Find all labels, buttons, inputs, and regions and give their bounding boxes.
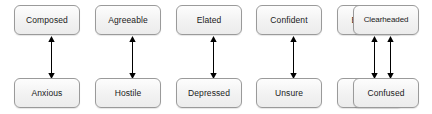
mood-node-label: Composed — [26, 16, 68, 25]
mood-node-label: Clearheaded — [364, 16, 409, 24]
mood-node-label: Elated — [197, 16, 222, 25]
mood-pair-column: Clearheaded Confused — [352, 0, 420, 114]
mood-node-label: Agreeable — [108, 16, 148, 25]
mood-node-negative[interactable]: Depressed — [176, 78, 242, 108]
mood-node-label: Anxious — [32, 89, 63, 98]
bidirectional-arrow-icon — [289, 36, 290, 79]
mood-node-label: Hostile — [115, 89, 142, 98]
mood-node-positive[interactable]: Agreeable — [95, 5, 161, 35]
mood-node-label: Unsure — [275, 89, 303, 98]
mood-pair-column: Composed Anxious — [14, 0, 82, 114]
mood-pair-column: Agreeable Hostile — [95, 0, 163, 114]
mood-pair-column: Elated Depressed — [176, 0, 244, 114]
mood-node-label: Depressed — [188, 89, 230, 98]
bidirectional-arrow-icon — [209, 36, 210, 79]
mood-node-negative[interactable]: Anxious — [14, 78, 80, 108]
mood-scale-diagram: Composed Anxious Agreeable Hostile — [0, 0, 432, 114]
mood-node-positive[interactable]: Confident — [256, 5, 322, 35]
bidirectional-arrow-icon — [128, 36, 129, 79]
mood-node-negative[interactable]: Hostile — [95, 78, 161, 108]
mood-node-negative[interactable]: Unsure — [256, 78, 322, 108]
bidirectional-arrow-icon — [386, 36, 387, 79]
mood-node-positive[interactable]: Clearheaded — [353, 5, 419, 35]
mood-node-label: Confused — [367, 89, 404, 98]
mood-node-label: Confident — [270, 16, 307, 25]
bidirectional-arrow-icon — [47, 36, 48, 79]
mood-node-positive[interactable]: Elated — [176, 5, 242, 35]
mood-pair-column: Confident Unsure — [256, 0, 324, 114]
mood-node-positive[interactable]: Composed — [14, 5, 80, 35]
mood-node-negative[interactable]: Confused — [353, 78, 419, 108]
